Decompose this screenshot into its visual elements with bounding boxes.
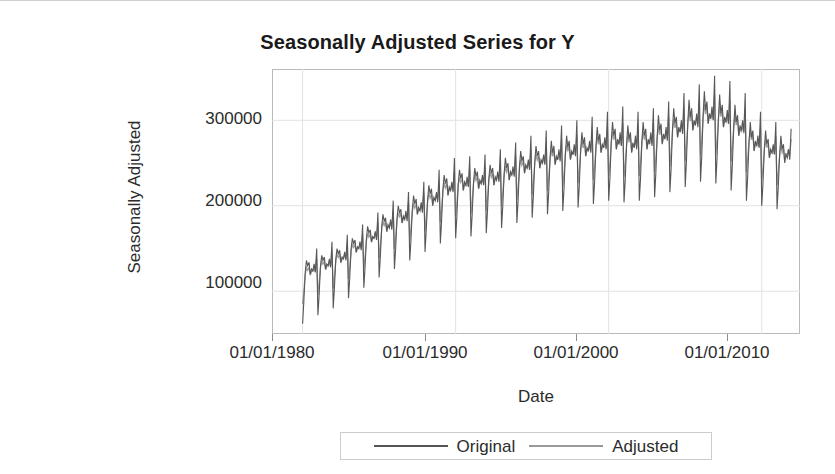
- legend-entry-original[interactable]: Original: [374, 438, 516, 455]
- y-tick-label-200000: 200000: [142, 191, 262, 211]
- legend-label-original: Original: [457, 438, 516, 455]
- legend-swatch-adjusted-icon: [529, 445, 603, 447]
- x-tick-label-1980: 01/01/1980: [192, 343, 352, 363]
- chart-screenshot: Seasonally Adjusted Series for Y Seasona…: [0, 0, 835, 474]
- y-tick-label-100000: 100000: [142, 273, 262, 293]
- page-title: Seasonally Adjusted Series for Y: [0, 31, 835, 54]
- legend-swatch-original-icon: [374, 445, 448, 447]
- legend-label-adjusted: Adjusted: [612, 438, 678, 455]
- x-tick-mark-1980: [272, 334, 273, 341]
- x-tick-label-2000: 01/01/2000: [496, 343, 656, 363]
- y-axis-ticks: 300000 200000 100000: [140, 1, 262, 474]
- series-canvas: [272, 69, 800, 334]
- y-tick-label-300000: 300000: [142, 109, 262, 129]
- x-tick-label-2010: 01/01/2010: [647, 343, 807, 363]
- x-tick-mark-1990: [425, 334, 426, 341]
- legend-entry-adjusted[interactable]: Adjusted: [529, 438, 678, 455]
- x-tick-mark-2000: [576, 334, 577, 341]
- x-tick-mark-2010: [727, 334, 728, 341]
- series-line-original: [303, 76, 792, 324]
- x-axis-title: Date: [272, 387, 800, 407]
- chart-legend: Original Adjusted: [340, 432, 712, 460]
- x-tick-label-1990: 01/01/1990: [345, 343, 505, 363]
